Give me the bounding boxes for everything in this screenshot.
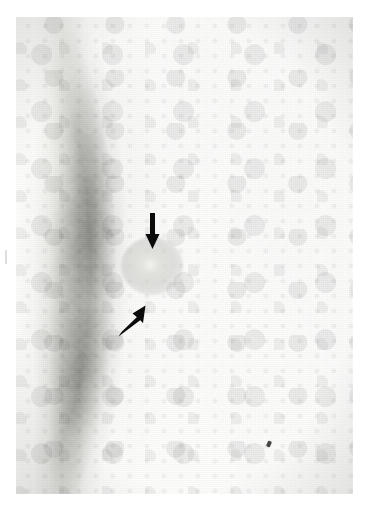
view-description: Mediolateral breast radiograph showing a…: [0, 0, 1, 1]
modality-label: Mammogram: [0, 0, 1, 1]
x-ray-film: [16, 17, 353, 494]
film-vignette: [16, 17, 353, 494]
document-caption: [0, 0, 1, 1]
image-viewer: Mammogram Mediolateral breast radiograph…: [0, 0, 365, 508]
margin-tick-artifact: [5, 250, 7, 264]
